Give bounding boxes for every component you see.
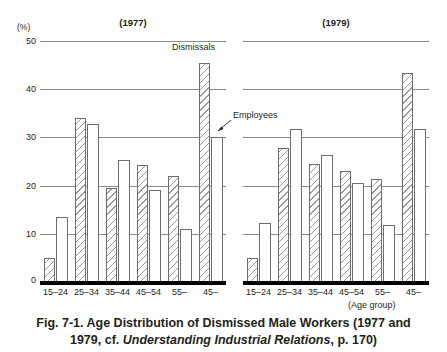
x-tick-label-0: 15–24	[243, 287, 274, 297]
annotation-dismissals: Dismissals	[172, 42, 215, 52]
x-tick-label-2: 35–44	[102, 287, 133, 297]
bar-employees-55-4	[180, 229, 192, 282]
caption-line-1: Fig. 7-1. Age Distribution of Dismissed …	[0, 315, 447, 332]
panel-title-1979: (1979)	[243, 17, 429, 28]
panel-1979: (1979) 15–2425–3435–4445–5455–45– (Age g…	[243, 0, 429, 300]
gridline-50	[243, 41, 429, 42]
y-tick-50: 50	[26, 36, 36, 46]
y-axis-unit-label: (%)	[17, 22, 30, 32]
bar-dismissals-2534-1	[75, 118, 87, 282]
x-tick-label-5: 45–	[195, 287, 226, 297]
y-axis: (%) 50 40 30 20 10 0	[0, 0, 40, 300]
figure-caption: Fig. 7-1. Age Distribution of Dismissed …	[0, 315, 447, 349]
bar-dismissals-55-4	[371, 179, 383, 282]
bar-employees-45-5	[414, 129, 426, 282]
plot-area-1977	[40, 41, 226, 282]
x-tick-label-4: 55–	[164, 287, 195, 297]
x-tick-label-3: 45–54	[133, 287, 164, 297]
y-tick-40: 40	[26, 84, 36, 94]
y-tick-30: 30	[26, 132, 36, 142]
bar-dismissals-45-5	[402, 73, 414, 282]
bar-dismissals-1524-0	[44, 258, 56, 282]
x-tick-label-0: 15–24	[40, 287, 71, 297]
annotation-employees: Employees	[233, 110, 278, 120]
age-group-axis-label: (Age group)	[348, 300, 396, 310]
bar-dismissals-45-5	[199, 63, 211, 282]
bar-dismissals-3544-2	[106, 188, 118, 282]
figure-container: (%) 50 40 30 20 10 0 (1977) 15–2425–3435…	[0, 0, 447, 352]
caption-book-title: Understanding Industrial Relations	[123, 333, 331, 347]
caption-line-2-post: , p. 170)	[330, 333, 377, 347]
x-axis-labels-1979: 15–2425–3435–4445–5455–45–	[243, 287, 429, 301]
bar-dismissals-3544-2	[309, 164, 321, 282]
bar-employees-3544-2	[321, 155, 333, 282]
x-axis-baseline-1979	[243, 281, 429, 285]
bar-employees-1524-0	[259, 223, 271, 282]
bar-employees-45-5	[211, 137, 223, 282]
x-tick-label-4: 55–	[367, 287, 398, 297]
bar-employees-2534-1	[290, 129, 302, 282]
bar-employees-55-4	[383, 225, 395, 282]
x-axis-labels-1977: 15–2425–3435–4445–5455–45–	[40, 287, 226, 301]
y-tick-20: 20	[26, 181, 36, 191]
x-axis-baseline-1977	[40, 281, 226, 285]
bar-dismissals-2534-1	[278, 148, 290, 282]
bar-employees-1524-0	[56, 217, 68, 282]
caption-line-2-pre: 1979, cf.	[70, 333, 123, 347]
bar-dismissals-1524-0	[247, 258, 259, 282]
x-tick-label-1: 25–34	[71, 287, 102, 297]
x-tick-label-5: 45–	[398, 287, 429, 297]
x-tick-label-3: 45–54	[336, 287, 367, 297]
x-tick-label-1: 25–34	[274, 287, 305, 297]
caption-line-2: 1979, cf. Understanding Industrial Relat…	[0, 332, 447, 349]
panel-title-1977: (1977)	[40, 17, 226, 28]
y-tick-0: 0	[31, 275, 36, 285]
bar-dismissals-55-4	[168, 176, 180, 282]
bar-employees-2534-1	[87, 124, 99, 282]
bar-employees-4554-3	[149, 190, 161, 282]
plot-area-1979	[243, 41, 429, 282]
bar-dismissals-4554-3	[137, 165, 149, 282]
x-tick-label-2: 35–44	[305, 287, 336, 297]
bar-employees-4554-3	[352, 183, 364, 282]
bar-employees-3544-2	[118, 160, 130, 282]
bar-dismissals-4554-3	[340, 171, 352, 282]
y-tick-10: 10	[26, 229, 36, 239]
